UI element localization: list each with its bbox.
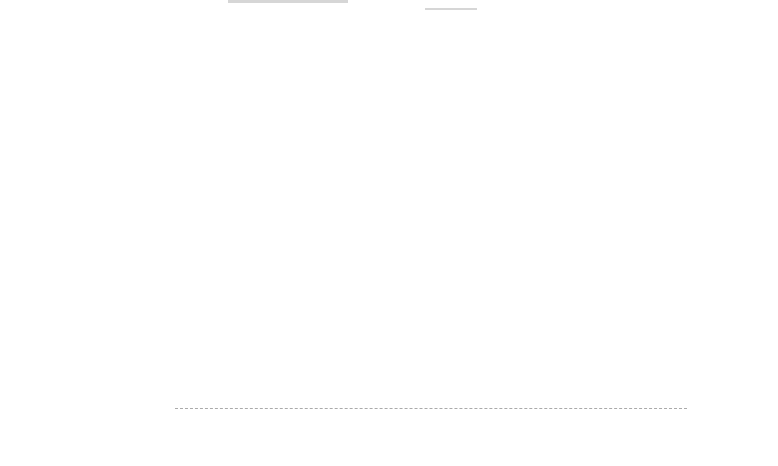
cropped-header-text (228, 0, 348, 3)
cropped-header-underline (425, 8, 477, 10)
x-axis-line (175, 408, 687, 409)
